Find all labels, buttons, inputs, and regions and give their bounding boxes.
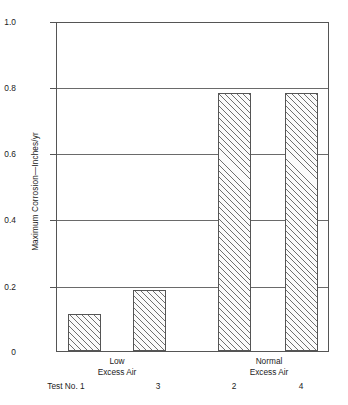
y-tick-label-0.2: 0.2 — [0, 283, 16, 291]
bar-test-2 — [218, 93, 251, 351]
y-tick-label-0.6: 0.6 — [0, 150, 16, 158]
bar-test-4 — [285, 93, 318, 351]
bar-test-1 — [68, 314, 101, 351]
y-tick-label-0: 0 — [0, 348, 16, 356]
y-tick-label-1.0: 1.0 — [0, 18, 16, 26]
y-axis-title: Maximum Corrosion—Inches/yr — [31, 97, 40, 287]
gridline-0.8 — [57, 88, 328, 89]
group-label-normal-excess-air: Normal Excess Air — [224, 356, 314, 377]
test-no-label-1: Test No. 1 — [16, 381, 116, 391]
plot-area — [56, 22, 329, 352]
test-no-label-4: 4 — [286, 381, 316, 391]
group-label-low-excess-air: Low Excess Air — [72, 356, 162, 377]
corrosion-bar-chart: Maximum Corrosion—Inches/yr 1.0 0.8 0.6 … — [0, 0, 348, 405]
test-no-label-2: 2 — [219, 381, 249, 391]
y-tick-label-0.4: 0.4 — [0, 216, 16, 224]
test-no-label-3: 3 — [143, 381, 173, 391]
y-tick-label-0.8: 0.8 — [0, 84, 16, 92]
bar-test-3 — [133, 290, 166, 351]
